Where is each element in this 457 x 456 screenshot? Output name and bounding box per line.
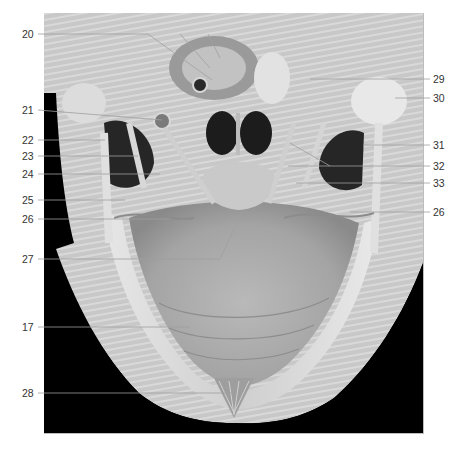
label-26-left: 26 [22,213,38,225]
label-28: 28 [22,387,38,399]
label-20: 20 [22,28,38,40]
label-21: 21 [22,104,38,116]
label-23: 23 [22,150,38,162]
specimen-illustration [44,13,423,433]
label-17: 17 [22,321,38,333]
label-26-right: 26 [433,206,453,218]
label-24: 24 [22,168,38,180]
label-29: 29 [433,73,453,85]
label-30: 30 [433,92,453,104]
label-22: 22 [22,134,38,146]
dissection-photo [44,13,424,434]
label-33: 33 [433,177,453,189]
label-32: 32 [433,160,453,172]
label-27: 27 [22,253,38,265]
label-25: 25 [22,194,38,206]
label-31: 31 [433,139,453,151]
